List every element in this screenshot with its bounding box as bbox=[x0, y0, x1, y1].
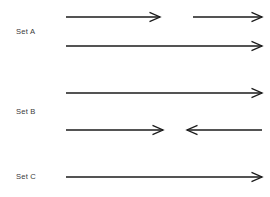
arrow-row bbox=[66, 41, 262, 50]
arrow-right bbox=[66, 88, 262, 97]
arrow-left bbox=[187, 125, 262, 134]
set-label-set-b: Set B bbox=[16, 107, 36, 116]
arrow-row bbox=[66, 88, 262, 97]
set-labels-group: Set ASet BSet C bbox=[16, 27, 36, 181]
set-label-set-a: Set A bbox=[16, 27, 36, 36]
arrow-row bbox=[66, 12, 262, 21]
arrow-right bbox=[66, 172, 262, 181]
figure-canvas: Set ASet BSet C bbox=[0, 0, 270, 197]
arrow-row bbox=[66, 125, 262, 134]
arrow-right bbox=[66, 12, 160, 21]
set-label-set-c: Set C bbox=[16, 172, 36, 181]
arrow-diagram: Set ASet BSet C bbox=[0, 0, 270, 197]
arrow-right bbox=[66, 125, 163, 134]
arrow-right bbox=[193, 12, 262, 21]
arrow-row bbox=[66, 172, 262, 181]
arrow-right bbox=[66, 41, 262, 50]
arrows-group bbox=[66, 12, 262, 181]
